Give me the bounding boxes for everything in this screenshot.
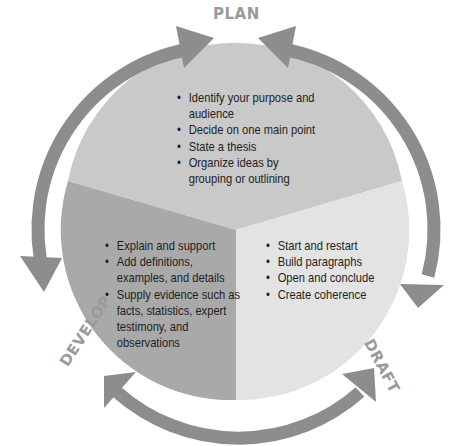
arrowhead-toward-draft-icon <box>400 284 444 308</box>
arrowhead-toward-develop-icon <box>20 256 62 292</box>
draft-bullet: Open and conclude <box>266 270 401 286</box>
draft-bullet: Build paragraphs <box>266 254 401 270</box>
draft-bullet: Create coherence <box>266 287 401 303</box>
plan-bullet: State a thesis <box>177 139 357 155</box>
develop-bullet: Add definitions, examples, and details <box>105 254 243 286</box>
plan-bullet: Organize ideas by grouping or outlining <box>177 155 315 187</box>
draft-bullet-list: Start and restart Build paragraphs Open … <box>266 238 401 303</box>
draft-bullet: Start and restart <box>266 238 401 254</box>
develop-bullet: Explain and support <box>105 238 240 254</box>
plan-bullet: Identify your purpose and audience <box>177 90 315 122</box>
plan-bullet-list: Identify your purpose and audience Decid… <box>177 90 357 187</box>
develop-bullet-list: Explain and support Add definitions, exa… <box>105 238 240 351</box>
plan-bullet: Decide on one main point <box>177 122 357 138</box>
stage-label-plan: PLAN <box>213 5 260 23</box>
develop-bullet: Supply evidence such as facts, statistic… <box>105 287 241 352</box>
